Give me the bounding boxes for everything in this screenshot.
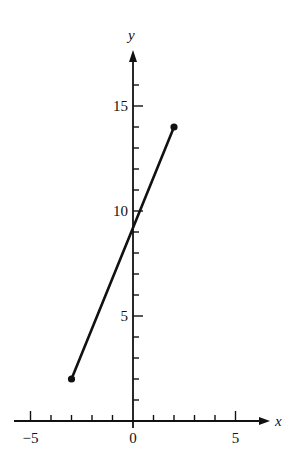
x-tick-label: 0 bbox=[129, 430, 137, 446]
line-segment-chart: −50551015 x y bbox=[0, 0, 293, 471]
segment-line bbox=[72, 127, 175, 379]
endpoint-dot bbox=[68, 375, 75, 382]
y-tick-label: 15 bbox=[113, 98, 128, 114]
endpoint-dot bbox=[170, 123, 177, 130]
y-axis-arrow-icon bbox=[129, 50, 137, 62]
x-tick-label: 5 bbox=[232, 430, 240, 446]
x-axis-arrow-icon bbox=[259, 417, 270, 425]
tick-labels: −50551015 bbox=[23, 98, 240, 446]
x-axis-label: x bbox=[274, 413, 282, 429]
y-tick-label: 5 bbox=[121, 308, 129, 324]
x-tick-label: −5 bbox=[23, 430, 39, 446]
y-axis-label: y bbox=[126, 27, 135, 43]
data-series bbox=[68, 123, 178, 382]
y-tick-label: 10 bbox=[113, 203, 128, 219]
